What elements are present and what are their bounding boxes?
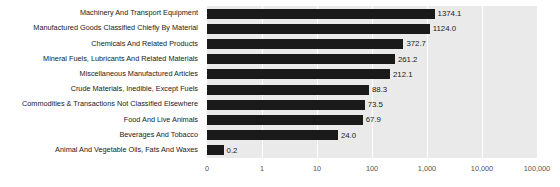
bar-row: 73.5 bbox=[207, 97, 537, 112]
bar-value-label: 212.1 bbox=[390, 69, 413, 80]
category-label: Manufactured Goods Classified Chiefly By… bbox=[0, 23, 202, 33]
category-label: Commodities & Transactions Not Classifie… bbox=[0, 99, 202, 109]
bar-value-label: 88.3 bbox=[369, 84, 387, 95]
bar-value-label: 1374.1 bbox=[435, 8, 462, 19]
x-axis: 01101001,00010,000100,000 bbox=[207, 158, 537, 183]
bar-row: 24.0 bbox=[207, 128, 537, 143]
x-tick-label: 1,000 bbox=[418, 164, 436, 173]
bar[interactable] bbox=[207, 145, 224, 155]
category-label: Mineral Fuels, Lubricants And Related Ma… bbox=[0, 54, 202, 64]
bar[interactable] bbox=[207, 100, 365, 110]
category-label: Chemicals And Related Products bbox=[0, 39, 202, 49]
category-label: Miscellaneous Manufactured Articles bbox=[0, 69, 202, 79]
x-tick-label: 0 bbox=[205, 164, 209, 173]
category-label: Machinery And Transport Equipment bbox=[0, 8, 202, 18]
bar-row: 372.7 bbox=[207, 36, 537, 51]
bar-value-label: 73.5 bbox=[365, 99, 383, 110]
bar-chart: Machinery And Transport EquipmentManufac… bbox=[0, 0, 560, 187]
category-label: Beverages And Tobacco bbox=[0, 130, 202, 140]
bar-value-label: 372.7 bbox=[403, 38, 426, 49]
bar[interactable] bbox=[207, 69, 390, 79]
category-label: Food And Live Animals bbox=[0, 115, 202, 125]
plot-area: 1374.11124.0372.7261.2212.188.373.567.92… bbox=[207, 6, 537, 158]
category-label: Animal And Vegetable Oils, Fats And Waxe… bbox=[0, 145, 202, 155]
bar[interactable] bbox=[207, 130, 338, 140]
bar[interactable] bbox=[207, 24, 430, 34]
bar[interactable] bbox=[207, 39, 403, 49]
bar-value-label: 0.2 bbox=[224, 145, 238, 156]
bar-value-label: 1124.0 bbox=[430, 23, 456, 34]
bar-row: 1374.1 bbox=[207, 6, 537, 21]
bar[interactable] bbox=[207, 9, 435, 19]
category-label: Crude Materials, Inedible, Except Fuels bbox=[0, 84, 202, 94]
bar-row: 0.2 bbox=[207, 143, 537, 158]
bar[interactable] bbox=[207, 85, 369, 95]
bar-row: 1124.0 bbox=[207, 21, 537, 36]
x-tick-label: 10 bbox=[313, 164, 321, 173]
bar-row: 212.1 bbox=[207, 67, 537, 82]
x-tick-label: 1 bbox=[260, 164, 264, 173]
bar-value-label: 261.2 bbox=[395, 54, 418, 65]
bar[interactable] bbox=[207, 54, 395, 64]
bar-value-label: 24.0 bbox=[338, 130, 356, 141]
x-tick-label: 10,000 bbox=[471, 164, 493, 173]
bar[interactable] bbox=[207, 115, 363, 125]
bar-row: 88.3 bbox=[207, 82, 537, 97]
x-tick-label: 100,000 bbox=[524, 164, 550, 173]
x-tick-label: 100 bbox=[366, 164, 378, 173]
bar-row: 261.2 bbox=[207, 52, 537, 67]
bar-value-label: 67.9 bbox=[363, 114, 381, 125]
category-axis-labels: Machinery And Transport EquipmentManufac… bbox=[0, 6, 202, 158]
bar-row: 67.9 bbox=[207, 112, 537, 127]
gridline bbox=[537, 6, 538, 158]
